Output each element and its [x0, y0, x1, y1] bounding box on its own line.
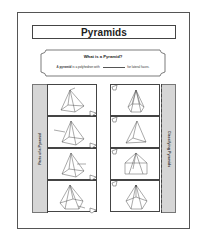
- page-title: Pyramids: [81, 27, 127, 38]
- flap-card-hexagonal[interactable]: [110, 84, 160, 116]
- triangular-pyramid-icon: [111, 117, 161, 149]
- parts-of-pyramid-label: Parts of a Pyramid: [38, 133, 42, 165]
- pentagonal-pyramid-icon: [48, 181, 98, 214]
- definition-suffix: for lateral faces.: [127, 65, 150, 69]
- fill-in-blank[interactable]: [103, 65, 125, 68]
- flap-tab-icon: [112, 117, 117, 122]
- square-pyramid-icon: [48, 149, 98, 181]
- flap-card-triangular[interactable]: [110, 116, 160, 148]
- parts-of-pyramid-strip: Parts of a Pyramid: [32, 84, 48, 213]
- square-pyramid-icon: [48, 85, 98, 117]
- fold-line-right: [161, 84, 162, 213]
- definition-heading: What is a Pyramid?: [40, 54, 166, 59]
- flap-card-face[interactable]: [47, 148, 97, 180]
- flap-tab-icon: [112, 181, 117, 186]
- flap-tab-icon: [112, 149, 117, 154]
- definition-sentence: A pyramid is a polyhedron with for later…: [40, 65, 166, 69]
- classifying-pyramids-label: Classifying Pyramids: [167, 130, 171, 166]
- title-banner: Pyramids: [32, 25, 176, 39]
- definition-box: What is a Pyramid? A pyramid is a polyhe…: [40, 49, 166, 77]
- flap-card-rectangular[interactable]: [110, 148, 160, 180]
- classifying-pyramids-strip: Classifying Pyramids: [161, 84, 176, 213]
- definition-term: pyramid: [59, 65, 71, 69]
- flap-card-base[interactable]: [47, 180, 97, 212]
- flap-card-pentagonal[interactable]: [110, 180, 160, 212]
- rectangular-pyramid-icon: [111, 149, 161, 181]
- flap-tab-icon: [112, 85, 117, 90]
- hexagonal-pyramid-icon: [111, 85, 161, 117]
- square-pyramid-icon: [48, 117, 98, 149]
- flap-card-apex[interactable]: [47, 84, 97, 116]
- flap-card-edge[interactable]: [47, 116, 97, 148]
- pentagonal-pyramid-icon: [111, 181, 161, 214]
- flap-tab-icon: [90, 208, 96, 213]
- definition-middle: is a polyhedron with: [71, 65, 100, 69]
